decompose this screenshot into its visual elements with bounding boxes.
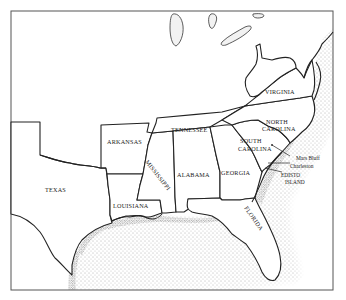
label-edisto-island-1: EDISTO	[281, 172, 300, 178]
label-virginia: VIRGINIA	[265, 88, 295, 95]
label-edisto-island-2: ISLAND	[285, 179, 305, 185]
label-georgia: GEORGIA	[221, 169, 251, 176]
label-mars-bluff: Mars Bluff	[296, 155, 320, 161]
label-north-carolina-1: NORTH	[266, 118, 288, 125]
label-alabama: ALABAMA	[177, 171, 210, 178]
label-south-carolina-2: CAROLINA	[238, 145, 272, 152]
label-charleston: Charleston	[290, 163, 314, 169]
label-texas: TEXAS	[45, 186, 66, 193]
label-south-carolina-1: SOUTH	[240, 137, 262, 144]
map: TEXAS ARKANSAS LOUISIANA MISSISSIPPI TEN…	[0, 0, 346, 300]
label-north-carolina-2: CAROLINA	[262, 125, 296, 132]
label-arkansas: ARKANSAS	[107, 138, 142, 145]
lake-ontario-fragment	[253, 14, 264, 18]
label-tennessee: TENNESSEE	[171, 126, 208, 133]
label-louisiana: LOUISIANA	[113, 202, 149, 209]
